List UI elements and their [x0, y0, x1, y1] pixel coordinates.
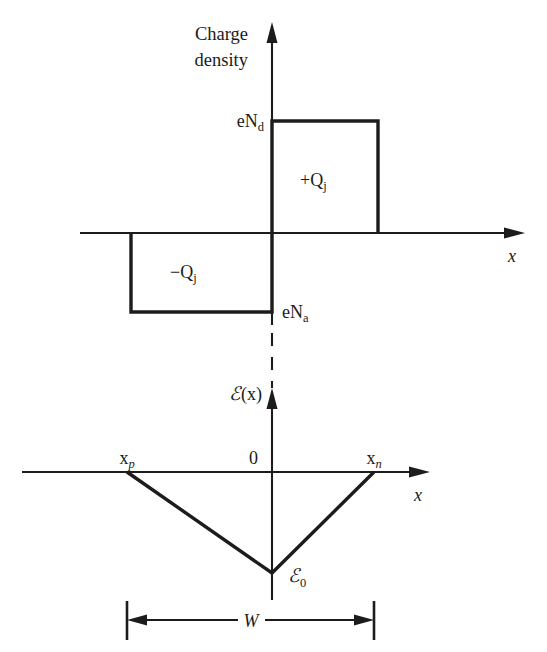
level-label-ena-sub: a	[303, 311, 309, 325]
region-label-positive-sub: j	[322, 179, 326, 193]
depletion-width-dimension: W	[127, 601, 374, 640]
charge-density-panel: Charge density eNd eNa +Qj −Qj x	[80, 22, 525, 325]
electric-field-panel: ℰ(x) 0 xp xn ℰ0 x	[22, 382, 430, 600]
region-label-negative-sign: −	[170, 262, 180, 282]
electric-field-y-axis-label: ℰ(x)	[229, 382, 262, 405]
level-label-end: eNd	[237, 111, 265, 134]
region-label-positive-charge: +Qj	[300, 170, 327, 193]
depletion-edge-label-xn: xn	[366, 448, 381, 471]
depletion-edge-xn-sub: n	[375, 457, 381, 471]
origin-label: 0	[249, 448, 258, 468]
level-label-end-base: eN	[237, 111, 258, 131]
charge-density-axis-title-line1: Charge	[195, 24, 248, 44]
charge-density-step-curve	[131, 121, 378, 312]
level-label-end-sub: d	[258, 120, 265, 134]
region-label-positive-base: Q	[310, 170, 323, 190]
electric-field-triangle-curve	[127, 472, 374, 573]
figure-container: Charge density eNd eNa +Qj −Qj x	[0, 0, 547, 652]
charge-density-axis-title-line2: density	[195, 50, 249, 70]
electric-field-y-axis-arrowhead	[267, 388, 278, 409]
peak-field-sub: 0	[300, 576, 306, 590]
charge-density-x-axis-arrowhead	[504, 228, 525, 239]
charge-density-x-axis-label: x	[507, 246, 516, 266]
charge-density-y-axis-arrowhead	[267, 22, 278, 43]
region-label-positive-sign: +	[300, 170, 310, 190]
electric-field-x-axis-label: x	[413, 485, 422, 505]
depletion-edge-xp-base: x	[119, 448, 128, 468]
level-label-ena: eNa	[282, 302, 309, 325]
dimension-arrowhead-right	[354, 615, 374, 626]
electric-field-x-axis-arrowhead	[409, 467, 430, 478]
depletion-edge-xp-sub: p	[127, 457, 134, 471]
level-label-ena-base: eN	[282, 302, 303, 322]
region-label-negative-base: Q	[180, 262, 193, 282]
electric-field-argument: (x)	[241, 384, 262, 405]
depletion-edge-label-xp: xp	[119, 448, 134, 471]
depletion-width-label: W	[244, 611, 261, 631]
region-label-negative-charge: −Qj	[170, 262, 197, 285]
dimension-arrowhead-left	[127, 615, 147, 626]
peak-field-label: ℰ0	[288, 564, 306, 590]
region-label-negative-sub: j	[192, 271, 196, 285]
depletion-edge-xn-base: x	[366, 448, 375, 468]
pn-junction-figure: Charge density eNd eNa +Qj −Qj x	[0, 0, 547, 652]
